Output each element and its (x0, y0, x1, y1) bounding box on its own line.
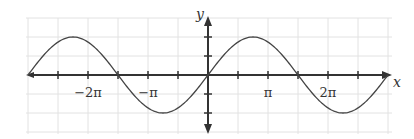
x-tick-label: −π (138, 85, 158, 100)
x-axis-label: x (393, 74, 401, 90)
sine-graph: −2π −π π 2π x y (0, 0, 414, 139)
x-tick-label: 2π (320, 85, 337, 100)
x-tick-label: −2π (74, 85, 102, 100)
y-axis-label: y (195, 6, 205, 22)
x-tick-label: π (264, 85, 273, 100)
x-axis-arrow-right-icon (382, 71, 392, 79)
